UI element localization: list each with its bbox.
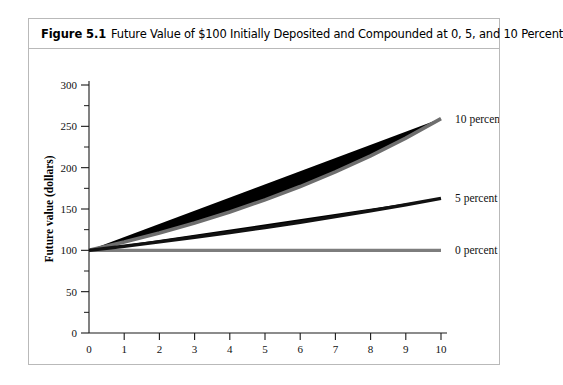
line-chart: 050100150200250300012345678910YearFuture… [29,49,499,365]
plot-area: 050100150200250300012345678910YearFuture… [29,49,499,365]
y-tick-label: 200 [61,162,78,174]
x-tick-label: 1 [121,343,127,355]
figure-container: Figure 5.1 Future Value of $100 Initiall… [28,18,500,365]
x-tick-label: 6 [297,343,303,355]
figure-caption: Figure 5.1 Future Value of $100 Initiall… [29,19,499,49]
series-label-0-percent: 0 percent [455,244,498,257]
series-line-5-percent [89,198,441,250]
y-tick-label: 150 [61,203,78,215]
y-tick-label: 50 [66,286,78,298]
figure-number: Figure 5.1 [41,27,106,41]
x-tick-label: 10 [436,343,448,355]
y-tick-label: 0 [72,327,78,339]
y-tick-label: 100 [61,244,78,256]
series-label-10-percent: 10 percent [455,113,499,126]
x-tick-label: 5 [262,343,268,355]
x-tick-label: 2 [157,343,163,355]
figure-title: Future Value of $100 Initially Deposited… [111,27,563,41]
y-tick-label: 300 [61,79,78,91]
series-line-10-percent [89,119,441,251]
x-tick-label: 9 [403,343,409,355]
x-tick-label: 7 [333,343,339,355]
y-tick-label: 250 [61,120,78,132]
y-axis-title: Future value (dollars) [43,155,56,262]
series-label-5-percent: 5 percent [455,192,498,205]
x-tick-label: 4 [227,343,233,355]
x-tick-label: 3 [192,343,198,355]
x-tick-label: 0 [86,343,92,355]
x-tick-label: 8 [368,343,374,355]
x-axis-title: Year [254,363,277,365]
